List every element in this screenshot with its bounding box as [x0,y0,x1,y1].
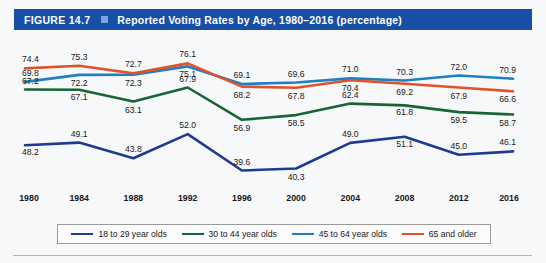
data-label: 45.0 [450,141,467,151]
legend-label: 30 to 44 year olds [209,229,277,239]
legend-color-swatch [292,233,314,236]
data-label: 72.3 [125,78,142,88]
legend-item-18-to-29-year-olds[interactable]: 18 to 29 year olds [71,229,166,239]
data-label: 51.1 [396,139,413,149]
legend-label: 45 to 64 year olds [319,229,387,239]
data-label: 39.6 [234,157,251,167]
data-label: 40.3 [288,172,305,182]
data-label: 46.1 [499,137,516,147]
square-bullet-icon [101,16,108,23]
x-axis-tick-1996: 1996 [232,193,252,203]
legend-color-swatch [402,233,424,236]
data-label: 75.3 [71,52,88,62]
data-label: 69.6 [288,69,305,79]
x-axis-tick-2012: 2012 [449,193,469,203]
x-axis-tick-2016: 2016 [499,193,519,203]
data-label: 49.1 [71,129,88,139]
legend-color-swatch [182,233,204,236]
bottom-divider [13,255,532,256]
data-label: 74.4 [22,54,39,64]
data-label: 56.9 [234,123,251,133]
data-label: 61.8 [396,107,413,117]
data-label: 75.1 [179,69,196,79]
data-label: 48.2 [22,147,39,157]
data-label: 67.8 [288,91,305,101]
data-label: 59.5 [450,115,467,125]
data-label: 52.0 [179,120,196,130]
x-axis-tick-1984: 1984 [69,193,89,203]
x-axis-tick-2000: 2000 [286,193,306,203]
figure-container: FIGURE 14.7 Reported Voting Rates by Age… [0,0,546,263]
data-label: 67.9 [450,91,467,101]
x-axis-tick-1992: 1992 [178,193,198,203]
chart-legend: 18 to 29 year olds30 to 44 year olds45 t… [57,224,491,244]
data-label: 70.4 [342,83,359,93]
data-label: 69.1 [234,70,251,80]
legend-label: 65 and older [429,229,477,239]
x-axis-tick-2008: 2008 [395,193,415,203]
x-axis-tick-2004: 2004 [341,193,361,203]
data-label: 63.1 [125,105,142,115]
data-label: 70.9 [499,65,516,75]
x-axis-tick-1988: 1988 [124,193,144,203]
data-label: 66.6 [499,94,516,104]
data-label: 43.8 [125,144,142,154]
line-chart-svg: 48.249.143.852.039.640.349.051.145.046.1… [0,34,546,192]
x-axis-tick-labels: 1980198419881992199620002004200820122016 [0,193,546,209]
series-line-18-to-29-year-olds [25,134,513,170]
data-label: 68.2 [234,90,251,100]
data-label: 71.0 [342,64,359,74]
data-label: 72.7 [125,59,142,69]
figure-title: Reported Voting Rates by Age, 1980–2016 … [117,14,402,26]
series-line-30-to-44-year-olds [25,88,513,120]
data-label: 76.1 [179,49,196,59]
figure-number: FIGURE 14.7 [24,14,90,26]
data-label: 69.2 [396,87,413,97]
data-label: 49.0 [342,129,359,139]
legend-color-swatch [71,233,93,236]
data-label: 72.0 [450,62,467,72]
data-label: 67.1 [71,92,88,102]
data-label: 58.7 [499,118,516,128]
data-label: 70.3 [396,67,413,77]
legend-item-30-to-44-year-olds[interactable]: 30 to 44 year olds [182,229,277,239]
legend-label: 18 to 29 year olds [98,229,166,239]
data-label: 69.8 [22,68,39,78]
x-axis-tick-1980: 1980 [19,193,39,203]
figure-header-bar: FIGURE 14.7 Reported Voting Rates by Age… [14,9,532,30]
chart-plot-area: 48.249.143.852.039.640.349.051.145.046.1… [0,34,546,192]
data-label: 58.5 [288,118,305,128]
data-label: 72.2 [71,78,88,88]
legend-item-65-and-older[interactable]: 65 and older [402,229,477,239]
legend-item-45-to-64-year-olds[interactable]: 45 to 64 year olds [292,229,387,239]
